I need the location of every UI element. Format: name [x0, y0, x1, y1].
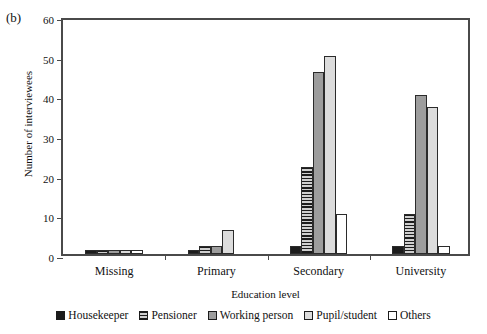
legend-item: Others — [388, 309, 431, 321]
y-axis-tick-label: 0 — [49, 252, 55, 264]
x-axis-tick — [370, 254, 371, 260]
y-axis-tick-label: 50 — [43, 54, 54, 66]
figure-panel: (b) Number of interviewees 0102030405060… — [0, 0, 487, 334]
bar — [290, 246, 302, 254]
panel-label: (b) — [6, 10, 21, 26]
bar — [324, 56, 336, 254]
bar — [97, 250, 109, 254]
legend-label: Others — [400, 309, 431, 321]
y-axis-title: Number of interviewees — [22, 34, 34, 214]
bar — [188, 250, 200, 254]
bar — [222, 230, 234, 254]
bar — [211, 246, 223, 254]
y-axis-tick — [57, 60, 63, 61]
y-axis-tick-label: 40 — [43, 93, 54, 105]
bar — [438, 246, 450, 254]
chart-legend: HousekeeperPensionerWorking personPupil/… — [0, 309, 487, 321]
legend-label: Housekeeper — [68, 309, 128, 321]
y-axis-tick — [57, 139, 63, 140]
plot-area: 0102030405060MissingPrimarySecondaryUniv… — [61, 18, 470, 256]
x-axis-title: Education level — [61, 288, 470, 300]
legend-label: Pupil/student — [316, 309, 377, 321]
legend-swatch-icon — [139, 311, 148, 320]
bar — [85, 250, 97, 254]
legend-swatch-icon — [304, 311, 313, 320]
y-axis-tick — [57, 179, 63, 180]
legend-item: Housekeeper — [56, 309, 128, 321]
bar — [392, 246, 404, 254]
x-axis-tick — [268, 254, 269, 260]
bar — [120, 250, 132, 254]
x-axis-category-label: Missing — [95, 264, 134, 279]
bar — [108, 250, 120, 254]
legend-item: Working person — [208, 309, 294, 321]
bar — [131, 250, 143, 254]
bar — [336, 214, 348, 254]
bar — [199, 246, 211, 254]
legend-swatch-icon — [56, 311, 65, 320]
y-axis-tick — [57, 99, 63, 100]
x-axis-category-label: Secondary — [293, 264, 344, 279]
y-axis-tick-label: 30 — [43, 133, 54, 145]
legend-label: Working person — [220, 309, 294, 321]
y-axis-tick — [57, 20, 63, 21]
legend-swatch-icon — [388, 311, 397, 320]
x-axis-category-label: Primary — [197, 264, 236, 279]
y-axis-tick-label: 10 — [43, 212, 54, 224]
x-axis-tick — [165, 254, 166, 260]
y-axis-tick-label: 60 — [43, 14, 54, 26]
x-axis-category-label: University — [396, 264, 447, 279]
plot-inner: 0102030405060MissingPrimarySecondaryUniv… — [63, 20, 468, 254]
legend-item: Pensioner — [139, 309, 196, 321]
y-axis-tick — [57, 218, 63, 219]
bar — [301, 167, 313, 254]
legend-swatch-icon — [208, 311, 217, 320]
bar — [313, 72, 325, 254]
y-axis-tick-label: 20 — [43, 173, 54, 185]
bar — [427, 107, 439, 254]
y-axis-tick — [57, 258, 63, 259]
legend-item: Pupil/student — [304, 309, 377, 321]
legend-label: Pensioner — [151, 309, 196, 321]
bar — [404, 214, 416, 254]
bar — [415, 95, 427, 254]
